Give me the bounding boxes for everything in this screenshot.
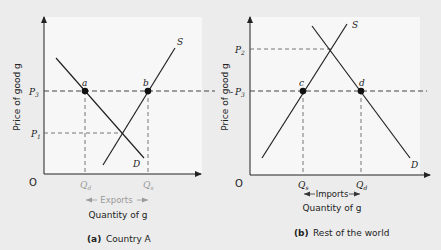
chart-svg: a b S D P3 P1 Qd Qs O Exports Quantity o… [0,0,441,250]
point-c-label: c [299,78,304,88]
x-axis-title: Quantity of g [88,210,147,220]
p3-tick-dot: - [230,87,233,97]
point-a [82,88,89,95]
point-b-label: b [143,78,149,88]
point-d-label: d [359,78,365,88]
p1-label: P1 [30,129,41,140]
demand-label: D [410,160,418,170]
exports-label: Exports [100,195,133,205]
panel-b: c d S D P2 - P3 Qs Qd O Imports Quantity… [220,17,430,238]
qd-label: Qd [80,180,91,191]
qd-label: Qd [356,180,367,191]
origin-label: O [29,177,37,188]
y-axis-title: Price of good g [220,63,230,130]
point-d [358,88,365,95]
caption-letter: (a) [87,234,101,244]
caption-text: Country A [106,234,152,244]
supply-label: S [352,20,358,30]
caption-letter: (b) [294,228,309,238]
qs-label: Qs [298,180,308,191]
point-a-label: a [82,78,87,88]
origin-label: O [235,178,243,189]
panel-a: a b S D P3 P1 Qd Qs O Exports Quantity o… [12,17,215,244]
x-axis-title: Quantity of g [302,203,361,213]
p3-label: P3 [234,87,245,98]
point-c [300,88,307,95]
p2-label: P2 [234,45,245,56]
y-axis-title: Price of good g [12,63,22,130]
figure: a b S D P3 P1 Qd Qs O Exports Quantity o… [0,0,441,250]
imports-label: Imports [316,189,349,199]
p3-label: P3 [28,87,39,98]
supply-label: S [177,37,183,47]
panel-b-plot-area [250,17,420,175]
demand-label: D [132,159,140,169]
qs-label: Qs [143,180,153,191]
caption-text: Rest of the world [313,228,389,238]
point-b [145,88,152,95]
